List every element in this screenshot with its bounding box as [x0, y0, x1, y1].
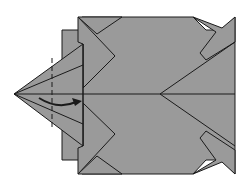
origami-diagram	[0, 0, 250, 184]
left-point	[14, 44, 83, 146]
